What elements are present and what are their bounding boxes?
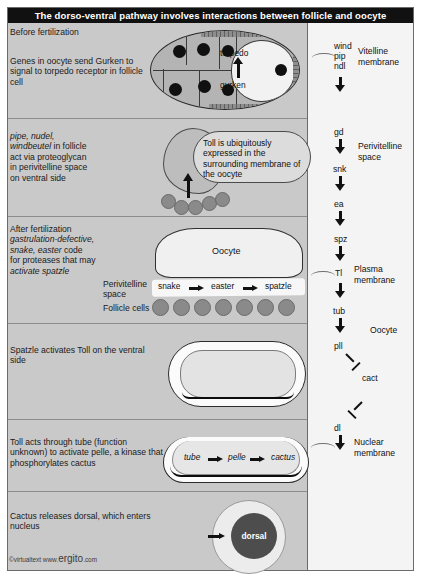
pathway-node-ndl: ndl	[334, 61, 345, 71]
panel3-heading: After fertilization	[10, 224, 72, 234]
dorsal-entry-arrow	[208, 533, 228, 539]
brand-name: ergito	[58, 553, 83, 564]
oocyte-label-panel3: Oocyte	[212, 246, 241, 256]
ventral-membrane-line-panel5	[170, 466, 302, 477]
panel-cactus-dorsal-body: Cactus releases dorsal, which enters nuc…	[10, 511, 160, 532]
kinase-arrow-pelle-cactus	[250, 456, 267, 462]
gene-gastrulation-defective: gastrulation-defective,	[10, 234, 94, 244]
panel-before-fertilization-body: Genes in oocyte send Gurken to signal to…	[10, 56, 150, 87]
copyright-line: ©virtualtext www.ergito.com	[9, 553, 97, 564]
perivitelline-space-label-line2: space	[103, 289, 126, 299]
compartment-vitelline-membrane-line2: membrane	[358, 57, 399, 67]
follicle-cells-label: Follicle cells	[103, 303, 149, 313]
panel3-proteases: for proteases that may	[10, 255, 96, 265]
inhibition-symbol-cact-dl	[346, 401, 362, 417]
pathway-node-ea: ea	[334, 199, 344, 209]
follicle-cell	[152, 299, 169, 316]
egg-chamber-body	[150, 30, 300, 110]
compartment-nuclear-membrane-line2: membrane	[354, 448, 395, 458]
gene-names-line2: windbeutel	[10, 141, 51, 151]
oocyte-inner-membrane-panel4	[180, 350, 296, 398]
follicle-cell	[236, 299, 253, 316]
follicle-cell	[257, 299, 274, 316]
nurse-cell-nucleus	[198, 80, 211, 93]
follicle-epithelium	[209, 104, 271, 110]
cascade-node-spatzle: spatzle	[265, 281, 292, 291]
vitelline-leader-line	[312, 53, 336, 63]
compartment-perivitelline-space-line1: Perivitelline	[358, 141, 402, 151]
follicle-cell	[194, 299, 211, 316]
pathway-column: wind pip ndl Vitelline membrane gd Periv…	[307, 23, 413, 570]
perivitelline-granule	[215, 192, 230, 207]
panel2-text-line5: on ventral side	[10, 173, 66, 183]
follicle-epithelium	[201, 31, 263, 37]
page-title: The dorso-ventral pathway involves inter…	[8, 8, 413, 23]
compartment-plasma-membrane-line1: Plasma	[354, 264, 383, 274]
copyright-text: ©virtualtext	[9, 556, 41, 563]
panel2-text-line4: in perivitelline space	[10, 162, 87, 172]
kinase-arrow-tube-pelle	[208, 456, 225, 462]
compartment-vitelline-membrane-line1: Vitelline	[358, 46, 388, 56]
compartment-nuclear-membrane-line1: Nuclear	[354, 437, 384, 447]
inhibition-symbol-pll-cact	[346, 353, 362, 369]
perivitelline-granule	[188, 200, 203, 215]
nuclear-leader-line	[311, 443, 335, 453]
pathway-node-gd: gd	[334, 127, 344, 137]
gene-names-line1: pipe, nudel,	[10, 131, 54, 141]
plasma-leader-line	[311, 271, 335, 281]
nurse-cell-nucleus	[173, 45, 186, 58]
egg-chamber-diagram: torpedo gurken	[150, 30, 300, 110]
gurken-label: gurken	[220, 80, 246, 90]
panel2-text-follicle: in follicle	[51, 141, 86, 151]
panel-divider	[8, 118, 307, 119]
compartment-oocyte-label: Oocyte	[370, 325, 397, 335]
follicle-cell	[215, 299, 232, 316]
pathway-node-tl: Tl	[335, 268, 342, 278]
panel-divider	[8, 491, 307, 492]
toll-expression-callout: Toll is ubiquitously expressed in the su…	[193, 131, 311, 183]
nurse-cell-boundary	[163, 69, 164, 103]
perivitelline-granule	[174, 200, 189, 215]
pathway-node-pll: pll	[334, 341, 343, 351]
tld-text: .com	[83, 556, 97, 563]
panel-before-fertilization-heading: Before fertilization	[10, 27, 79, 37]
pathway-node-cact: cact	[362, 373, 378, 383]
panel2-text-line3: act via proteoglycan	[10, 152, 86, 162]
oocyte-nucleus	[275, 64, 287, 76]
gene-snake-easter: snake, easter	[10, 245, 62, 255]
panel-divider	[8, 216, 307, 217]
panel3-code: code	[62, 245, 83, 255]
kinase-node-pelle: pelle	[228, 452, 246, 462]
nurse-cell-nucleus	[197, 43, 210, 56]
pathway-node-tub: tub	[333, 306, 345, 316]
cascade-arrow-easter-spatzle	[243, 285, 260, 291]
figure-title-bar: The dorso-ventral pathway involves inter…	[8, 8, 413, 23]
dorsal-label: dorsal	[231, 513, 277, 559]
toll-expression-callout-text: Toll is ubiquitously expressed in the su…	[203, 138, 310, 179]
panel3-activate-spatzle: activate spatzle	[10, 266, 69, 276]
figure-root: The dorso-ventral pathway involves inter…	[0, 0, 422, 579]
nurse-cell-boundary	[186, 35, 187, 65]
compartment-plasma-membrane-line2: membrane	[354, 275, 395, 285]
pathway-node-spz: spz	[334, 234, 347, 244]
follicle-epithelium	[293, 37, 300, 105]
panel-divider	[8, 419, 307, 420]
nurse-cell-boundary	[153, 70, 239, 71]
www-text: www.	[43, 556, 58, 563]
nucleus-panel6: dorsal	[231, 513, 277, 559]
panel-spatzle-toll-body: Spatzle activates Toll on the ventral si…	[10, 345, 160, 366]
cascade-node-easter: easter	[211, 281, 234, 291]
follicle-cell	[173, 299, 190, 316]
ventral-activation-line	[182, 392, 294, 399]
panel-after-fertilization-text: After fertilization gastrulation-defecti…	[10, 224, 150, 276]
cascade-node-snake: snake	[158, 281, 180, 291]
cascade-arrow-snake-easter	[189, 285, 206, 291]
panel-toll-tube-pelle-body: Toll acts through tube (function unknown…	[10, 437, 165, 468]
kinase-node-cactus: cactus	[271, 452, 295, 462]
perivitelline-space-label-line1: Perivitelline	[103, 279, 147, 289]
panel-pipe-nudel-text: pipe, nudel, windbeutel in follicle act …	[10, 131, 135, 183]
pathway-node-dl: dl	[334, 423, 341, 433]
follicle-cell	[278, 299, 295, 316]
panel-divider	[8, 323, 307, 324]
pathway-node-snk: snk	[333, 164, 346, 174]
